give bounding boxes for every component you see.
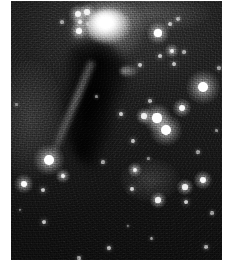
photographic-plate — [11, 1, 222, 260]
paper-margin-top — [0, 0, 230, 1]
film-grain-texture-secondary — [11, 1, 222, 260]
paper-margin-bottom — [0, 260, 230, 268]
paper-margin-right — [222, 0, 230, 268]
paper-margin-left — [0, 0, 11, 268]
astro-image-page — [0, 0, 230, 268]
